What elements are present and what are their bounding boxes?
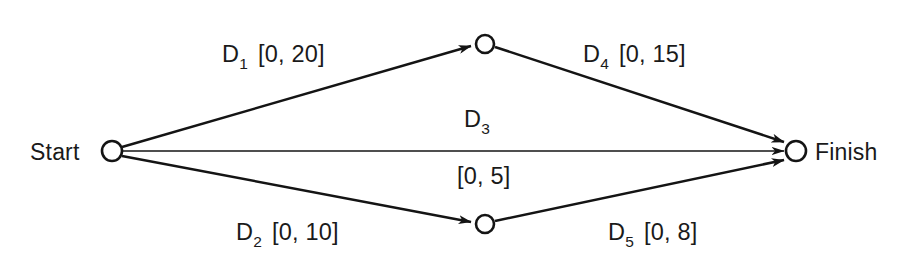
node-start xyxy=(102,141,122,161)
arc-d1-subscript: 1 xyxy=(239,55,248,72)
svg-text:D5[0, 8]: D5[0, 8] xyxy=(608,219,697,250)
arc-d1-label: D1[0, 20] xyxy=(222,41,325,72)
arc-d2-activity: D xyxy=(236,219,253,245)
node-finish xyxy=(786,141,806,161)
arc-d5-subscript: 5 xyxy=(625,233,634,250)
node-start-label: Start xyxy=(30,139,80,165)
arc-d2-subscript: 2 xyxy=(253,233,262,250)
arc-d2 xyxy=(122,156,471,222)
arc-d5-label: D5[0, 8] xyxy=(608,219,697,250)
svg-text:D3: D3 xyxy=(464,106,490,137)
arc-d4-activity: D xyxy=(583,41,600,67)
arc-d4-label: D4[0, 15] xyxy=(583,41,686,72)
diagram-canvas: Start Finish D1[0, 20] D4[0, 15] D3 [0, … xyxy=(0,0,923,263)
svg-text:D4[0, 15]: D4[0, 15] xyxy=(583,41,686,72)
arc-d3-label: D3 xyxy=(464,106,490,137)
arc-d5-interval: [0, 8] xyxy=(644,219,697,245)
arc-d1-activity: D xyxy=(222,41,239,67)
node-finish-label: Finish xyxy=(815,139,878,165)
arc-d3-activity: D xyxy=(464,106,481,132)
svg-text:D1[0, 20]: D1[0, 20] xyxy=(222,41,325,72)
arc-d2-interval: [0, 10] xyxy=(272,219,339,245)
arc-d3-interval: [0, 5] xyxy=(457,163,510,189)
arc-d1-interval: [0, 20] xyxy=(258,41,325,67)
arc-d3-subscript: 3 xyxy=(481,120,490,137)
arc-d2-label: D2[0, 10] xyxy=(236,219,339,250)
node-top-intermediate xyxy=(476,35,494,53)
arc-d4-subscript: 4 xyxy=(600,55,609,72)
arc-d5-activity: D xyxy=(608,219,625,245)
activity-network-diagram: Start Finish D1[0, 20] D4[0, 15] D3 [0, … xyxy=(0,0,923,263)
arc-d5 xyxy=(495,160,784,221)
svg-text:D2[0, 10]: D2[0, 10] xyxy=(236,219,339,250)
node-bottom-intermediate xyxy=(476,215,494,233)
arc-d4-interval: [0, 15] xyxy=(619,41,686,67)
